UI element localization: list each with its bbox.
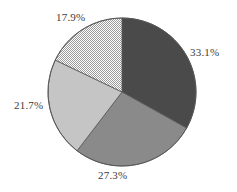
pie-label-slice-2: 21.7% xyxy=(14,100,43,111)
pie-label-slice-1: 27.3% xyxy=(98,170,127,181)
pie-chart-figure: 33.1% 27.3% 21.7% 17.9% xyxy=(0,0,237,192)
pie-chart-canvas xyxy=(0,0,237,192)
pie-label-slice-0: 33.1% xyxy=(190,47,219,58)
pie-label-slice-3: 17.9% xyxy=(56,12,85,23)
